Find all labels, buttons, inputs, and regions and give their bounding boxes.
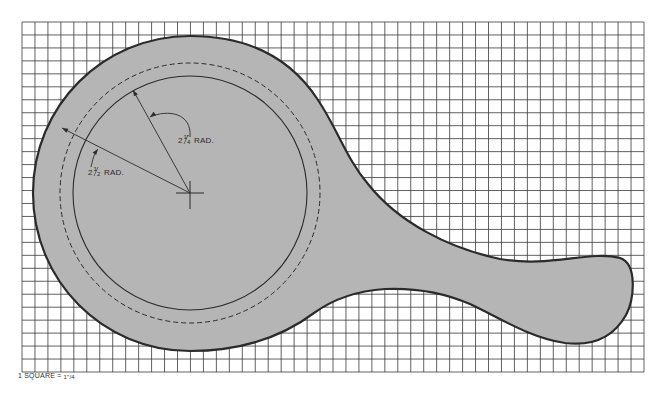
dimension-suffix: RAD. <box>104 168 124 177</box>
dimension-label-inner: 2 <box>178 136 183 145</box>
scale-note-prefix: 1 SQUARE = <box>18 372 64 379</box>
dimension-suffix: RAD. <box>194 136 214 145</box>
pattern-diagram: 21"4RAD.212RAD. <box>0 0 663 394</box>
scale-note-fraction-den: 4 <box>71 374 75 380</box>
dimension-label-outer: 2 <box>88 168 93 177</box>
scale-note: 1 SQUARE = 1"/4 <box>18 372 75 379</box>
